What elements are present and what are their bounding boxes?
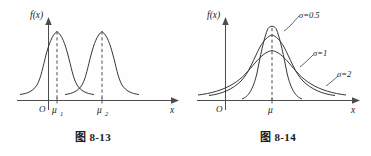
leader-sigma-0-5 [284, 16, 299, 31]
chart-8-14: f(x) x O μ σ=0.5 σ=1 σ=2 [185, 0, 371, 126]
mu1-label: μ [51, 105, 57, 115]
y-axis-label-8-14: f(x) [207, 10, 220, 21]
origin-label-8-13: O [39, 104, 46, 114]
mu2-label: μ [96, 105, 102, 115]
x-axis-arrowhead-8-13 [171, 97, 179, 103]
series-label-sigma-0-5: σ=0.5 [299, 10, 320, 20]
series-label-sigma-2: σ=2 [337, 69, 352, 79]
y-axis-arrowhead-8-13 [45, 17, 51, 25]
origin-label-8-14: O [216, 104, 223, 114]
x-axis-arrowhead-8-14 [352, 97, 360, 103]
y-axis-label-8-13: f(x) [30, 10, 43, 21]
x-axis-label-8-14: x [350, 105, 356, 115]
mu1-label-subscript: 1 [60, 110, 63, 117]
y-axis-arrowhead-8-14 [222, 17, 228, 25]
x-axis-label-8-13: x [169, 105, 175, 115]
leader-sigma-1 [300, 55, 313, 67]
figure-panel-8-14: f(x) x O μ σ=0.5 σ=1 σ=2 图 8-14 [185, 0, 371, 156]
figure-caption-8-13: 图 8-13 [0, 128, 186, 144]
mu2-label-subscript: 2 [105, 110, 109, 117]
mu-label: μ [267, 105, 273, 115]
figure-sheet: f(x) x O μ 1 μ 2 图 8-13 [0, 0, 371, 156]
series-label-sigma-1: σ=1 [313, 48, 327, 58]
figure-panel-8-13: f(x) x O μ 1 μ 2 图 8-13 [0, 0, 186, 156]
chart-8-13: f(x) x O μ 1 μ 2 [0, 0, 186, 126]
figure-caption-8-14: 图 8-14 [185, 128, 371, 144]
